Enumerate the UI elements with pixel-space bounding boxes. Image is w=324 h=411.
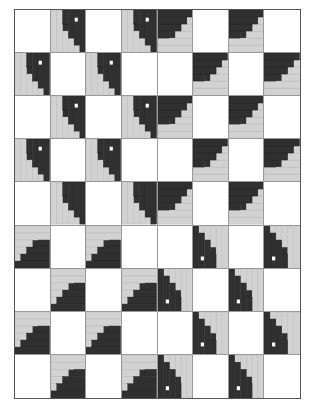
log-strip-log-8-dark [74, 10, 80, 45]
log-strip-log-8-dark [229, 17, 258, 24]
log-strip-log-3-light [246, 269, 252, 290]
log-strip-log-6-dark [27, 53, 33, 67]
log-strip-log-8-dark [128, 384, 157, 391]
log-strip-log-8-dark [163, 276, 169, 311]
plain-setting-square-r9c6 [193, 355, 229, 398]
log-strip-log-6-dark [38, 240, 50, 247]
log-cabin-artwork [193, 139, 228, 181]
log-strip-log-5-light [145, 45, 151, 52]
centre-dot-marker [110, 61, 113, 65]
centre-dot-marker [39, 61, 42, 65]
log-strip-log-5-light [270, 226, 276, 233]
log-strip-log-6-dark [175, 384, 181, 398]
log-strip-log-7-dark [169, 369, 175, 398]
log-cabin-block-r8c3 [86, 312, 122, 355]
centre-dot-marker [272, 342, 275, 346]
log-strip-log-8-dark [229, 103, 258, 110]
log-strip-log-8-dark [145, 182, 151, 217]
log-strip-log-9-dark [86, 347, 121, 354]
log-strip-log-3-light [246, 355, 252, 377]
log-strip-log-2-light [158, 124, 193, 131]
log-strip-log-4-light [139, 211, 145, 225]
plain-setting-square-r4c5 [158, 139, 194, 182]
log-strip-centre-square [27, 153, 33, 160]
log-strip-log-3-light [98, 160, 104, 181]
log-strip-log-3-light [175, 355, 181, 377]
log-cabin-artwork [51, 269, 86, 311]
log-strip-log-2-light [158, 38, 193, 45]
log-strip-log-4-light [15, 247, 27, 254]
log-strip-log-1-light [264, 88, 300, 95]
log-strip-log-7-dark [240, 283, 246, 311]
log-strip-centre-square [104, 240, 110, 247]
log-strip-log-2-light [92, 53, 98, 95]
log-strip-log-2-light [216, 312, 222, 354]
log-strip-log-5-light [86, 340, 92, 347]
log-strip-log-3-light [282, 160, 300, 167]
log-strip-log-2-light [92, 139, 98, 181]
log-strip-log-6-dark [193, 74, 205, 81]
log-strip-log-6-dark [109, 240, 121, 247]
log-cabin-artwork [86, 312, 121, 354]
log-strip-log-7-dark [193, 67, 216, 74]
log-strip-log-7-dark [158, 110, 181, 117]
log-strip-log-4-light [15, 333, 27, 340]
log-strip-log-4-light [252, 110, 264, 117]
log-strip-log-6-dark [229, 203, 241, 210]
log-cabin-artwork [51, 182, 86, 224]
centre-dot-marker [237, 299, 240, 303]
log-strip-centre-square [98, 67, 104, 74]
log-strip-log-1-light [122, 182, 128, 224]
log-cabin-artwork [15, 139, 50, 181]
log-strip-log-3-light [27, 160, 33, 181]
log-strip-log-2-light [264, 167, 300, 174]
log-strip-centre-square [210, 333, 216, 340]
log-cabin-artwork [86, 53, 121, 95]
log-strip-centre-square [246, 290, 252, 297]
log-strip-log-2-light [15, 319, 50, 326]
log-strip-log-9-dark [193, 53, 228, 60]
log-strip-log-9-dark [151, 96, 157, 138]
log-strip-log-1-light [86, 53, 92, 95]
log-strip-log-4-light [216, 153, 228, 160]
log-strip-log-5-light [186, 103, 192, 110]
log-strip-log-6-dark [282, 340, 288, 354]
log-cabin-block-r4c3 [86, 139, 122, 182]
log-strip-log-8-dark [264, 60, 294, 67]
log-strip-log-8-dark [193, 60, 222, 67]
log-cabin-artwork [158, 182, 193, 224]
log-cabin-block-r1c7 [229, 10, 265, 53]
log-strip-log-2-light [216, 226, 222, 268]
log-strip-log-6-dark [98, 53, 104, 67]
log-strip-log-8-dark [193, 146, 222, 153]
log-cabin-block-r3c7 [229, 96, 265, 139]
log-strip-log-9-dark [51, 304, 86, 311]
log-strip-log-2-light [193, 167, 228, 174]
log-strip-log-9-dark [264, 53, 300, 60]
log-strip-log-9-dark [44, 53, 50, 95]
plain-setting-square-r3c1 [15, 96, 51, 139]
log-strip-log-7-dark [158, 196, 181, 203]
log-strip-log-3-light [51, 369, 68, 376]
log-strip-log-4-light [68, 38, 74, 52]
log-strip-log-7-dark [169, 283, 175, 311]
log-strip-log-7-dark [158, 24, 181, 31]
log-strip-log-8-dark [21, 254, 50, 261]
quilt-diagram-canvas [0, 0, 324, 411]
log-strip-log-1-light [294, 312, 300, 354]
plain-setting-square-r4c4 [122, 139, 158, 182]
log-strip-log-8-dark [74, 96, 80, 131]
log-strip-log-4-light [288, 153, 300, 160]
log-strip-log-5-light [294, 146, 300, 153]
log-strip-log-4-light [205, 226, 211, 240]
log-strip-log-1-light [122, 269, 157, 276]
log-strip-log-7-dark [68, 10, 74, 38]
log-strip-log-1-light [51, 269, 86, 276]
log-strip-log-5-light [51, 384, 57, 391]
log-strip-log-6-dark [175, 297, 181, 311]
log-strip-log-9-dark [79, 10, 85, 52]
log-strip-log-1-light [186, 269, 192, 311]
log-strip-log-8-dark [56, 297, 85, 304]
log-strip-log-1-light [258, 355, 264, 398]
centre-dot-marker [237, 386, 240, 390]
